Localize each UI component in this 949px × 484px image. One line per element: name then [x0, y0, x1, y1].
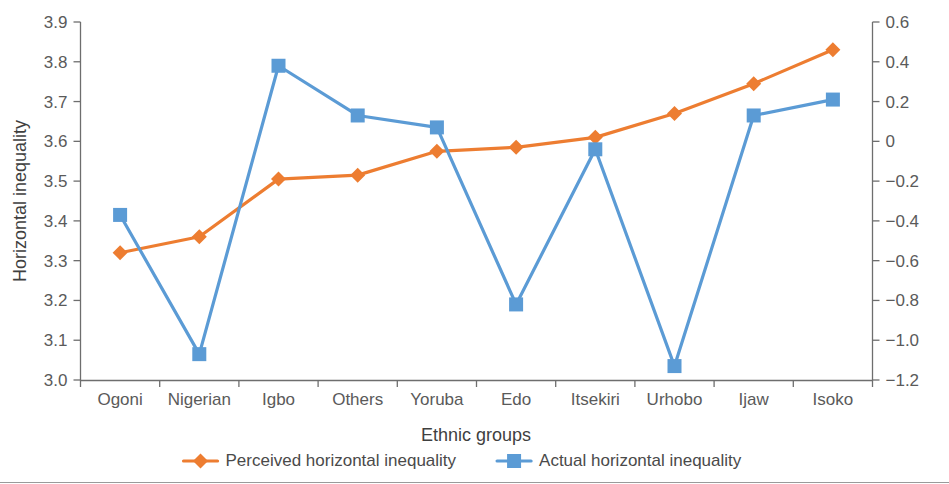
legend-marker — [507, 454, 521, 468]
x-category-label: Urhobo — [647, 390, 703, 409]
data-point-marker — [746, 76, 761, 91]
left-tick-label: 3.6 — [44, 132, 68, 151]
data-point-marker — [509, 297, 523, 311]
right-tick-label: −0.4 — [886, 212, 920, 231]
series-2 — [113, 59, 840, 373]
x-category-label: Edo — [501, 390, 531, 409]
data-point-marker — [430, 120, 444, 134]
data-point-marker — [272, 59, 286, 73]
left-tick-label: 3.9 — [44, 13, 68, 32]
left-axis-tick-labels: 3.03.13.23.33.43.53.63.73.83.9 — [44, 13, 68, 390]
left-axis-ticks — [74, 22, 81, 380]
data-point-marker — [826, 93, 840, 107]
left-tick-label: 3.1 — [44, 331, 68, 350]
left-tick-label: 3.3 — [44, 252, 68, 271]
x-category-label: Yoruba — [410, 390, 464, 409]
legend-label: Actual horizontal inequality — [539, 451, 742, 470]
left-tick-label: 3.7 — [44, 93, 68, 112]
data-point-marker — [113, 208, 127, 222]
right-axis-ticks — [873, 22, 880, 380]
right-tick-label: −0.6 — [886, 252, 920, 271]
series-1 — [113, 42, 841, 260]
chart-container: 3.03.13.23.33.43.53.63.73.83.9 Horizonta… — [0, 0, 949, 484]
x-axis-title: Ethnic groups — [421, 425, 531, 445]
data-point-marker — [192, 347, 206, 361]
x-category-label: Itsekiri — [571, 390, 620, 409]
data-point-marker — [429, 144, 444, 159]
left-axis: 3.03.13.23.33.43.53.63.73.83.9 Horizonta… — [10, 13, 81, 390]
data-point-marker — [509, 140, 524, 155]
data-point-marker — [747, 108, 761, 122]
right-tick-label: 0.6 — [886, 13, 910, 32]
right-tick-label: −0.2 — [886, 172, 920, 191]
right-axis-tick-labels: −1.2−1.0−0.8−0.6−0.4−0.200.20.40.6 — [886, 13, 920, 390]
x-category-label: Igbo — [262, 390, 295, 409]
chart-legend: Perceived horizontal inequalityActual ho… — [184, 451, 742, 470]
right-tick-label: 0.4 — [886, 53, 910, 72]
legend-label: Perceived horizontal inequality — [226, 451, 457, 470]
data-point-marker — [588, 142, 602, 156]
data-point-marker — [825, 42, 840, 57]
left-tick-label: 3.2 — [44, 291, 68, 310]
series-layer — [113, 42, 841, 373]
legend-marker — [193, 454, 208, 469]
data-point-marker — [667, 106, 682, 121]
y-axis-title: Horizontal inequality — [10, 120, 30, 282]
legend-item[interactable]: Perceived horizontal inequality — [184, 451, 457, 470]
dual-axis-line-chart: 3.03.13.23.33.43.53.63.73.83.9 Horizonta… — [0, 0, 949, 484]
x-category-label: Nigerian — [168, 390, 231, 409]
data-point-marker — [113, 245, 128, 260]
right-tick-label: −1.2 — [886, 371, 920, 390]
left-tick-label: 3.4 — [44, 212, 68, 231]
right-tick-label: −1.0 — [886, 331, 920, 350]
x-category-label: Isoko — [813, 390, 854, 409]
right-axis: −1.2−1.0−0.8−0.6−0.4−0.200.20.40.6 — [873, 13, 920, 390]
x-category-label: Ogoni — [97, 390, 142, 409]
x-axis: OgoniNigerianIgboOthersYorubaEdoItsekiri… — [81, 380, 873, 445]
data-point-marker — [351, 108, 365, 122]
right-tick-label: 0.2 — [886, 93, 910, 112]
right-tick-label: −0.8 — [886, 291, 920, 310]
x-axis-category-labels: OgoniNigerianIgboOthersYorubaEdoItsekiri… — [97, 390, 853, 409]
left-tick-label: 3.5 — [44, 172, 68, 191]
x-category-label: Ijaw — [739, 390, 770, 409]
data-point-marker — [350, 168, 365, 183]
legend-item[interactable]: Actual horizontal inequality — [497, 451, 742, 470]
x-category-label: Others — [332, 390, 383, 409]
right-tick-label: 0 — [886, 132, 895, 151]
data-point-marker — [668, 359, 682, 373]
left-tick-label: 3.0 — [44, 371, 68, 390]
left-tick-label: 3.8 — [44, 53, 68, 72]
